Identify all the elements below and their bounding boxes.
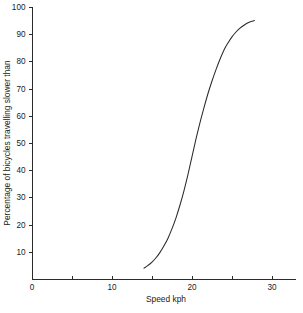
x-axis-tick-label: 10	[107, 283, 117, 292]
axes-group	[32, 7, 296, 280]
y-axis-tick-label: 80	[16, 57, 26, 66]
x-axis-tick-labels: 0102030	[30, 283, 277, 292]
data-curve-cumulative-percentage	[144, 21, 254, 269]
chart-plot-area: 102030405060708090100 0102030 Speed kph …	[0, 0, 303, 313]
y-axis-title: Percentage of bicycles travelling slower…	[2, 60, 12, 226]
y-axis-tick-label: 40	[16, 166, 26, 175]
y-axis-tick-label: 10	[16, 248, 26, 257]
x-axis-tick-label: 30	[267, 283, 277, 292]
x-axis-title: Speed kph	[146, 294, 186, 304]
y-axis-tick-label: 20	[16, 221, 26, 230]
y-axis-tick-label: 70	[16, 85, 26, 94]
y-axis-tick-label: 50	[16, 139, 26, 148]
x-axis-ticks	[33, 276, 273, 280]
y-axis-tick-labels: 102030405060708090100	[12, 3, 26, 257]
y-axis-tick-label: 30	[16, 193, 26, 202]
x-axis-tick-label: 20	[187, 283, 197, 292]
chart-container: 102030405060708090100 0102030 Speed kph …	[0, 0, 303, 313]
y-axis-ticks	[29, 8, 33, 253]
y-axis-tick-label: 100	[12, 3, 26, 12]
y-axis-tick-label: 90	[16, 30, 26, 39]
data-series-group	[144, 21, 254, 269]
x-axis-tick-label: 0	[30, 283, 35, 292]
y-axis-tick-label: 60	[16, 112, 26, 121]
